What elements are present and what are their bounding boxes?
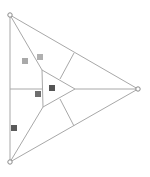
lower-connector — [60, 99, 74, 126]
top-left-vertex-circle-icon — [8, 13, 12, 17]
bottom-vertex-to-inner — [10, 107, 43, 162]
marker-light-2 — [37, 54, 43, 60]
outer-top-edge — [10, 15, 138, 89]
inner-triangle — [42, 70, 75, 107]
marker-medium — [35, 91, 41, 97]
right-vertex-circle-icon — [136, 87, 140, 91]
marker-dark-center — [49, 85, 55, 91]
triangle-subdivision-diagram — [0, 0, 150, 177]
marker-light-1 — [22, 58, 28, 64]
marker-dark-bottom — [11, 125, 17, 131]
bottom-left-vertex-circle-icon — [8, 160, 12, 164]
diagram-canvas — [0, 0, 150, 177]
marker-group — [11, 54, 55, 131]
upper-connector — [60, 53, 74, 79]
